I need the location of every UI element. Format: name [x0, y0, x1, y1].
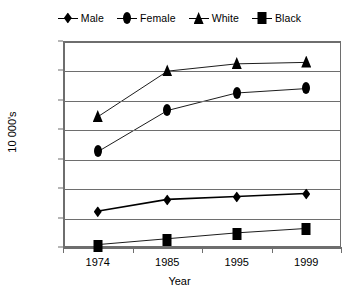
legend-label: White [212, 12, 239, 24]
x-tick-label: 1985 [155, 256, 179, 268]
x-tick-label: 1974 [86, 256, 110, 268]
x-tick-mark [272, 247, 273, 253]
x-tick-mark [133, 247, 134, 253]
x-axis-label: Year [0, 275, 359, 287]
ellipse-marker-icon [123, 12, 131, 24]
legend-item-male[interactable]: Male [58, 12, 104, 24]
gridline [64, 130, 340, 131]
series-line-female [99, 89, 306, 152]
data-point-black-1974 [93, 240, 102, 252]
x-tick-mark [63, 247, 64, 253]
data-point-black-1995 [232, 228, 241, 240]
legend-label: Male [81, 12, 104, 24]
gridline [64, 160, 340, 161]
gridline [64, 42, 340, 43]
legend-label: Black [275, 12, 301, 24]
gridline [64, 219, 340, 220]
legend-key-black [252, 12, 272, 24]
diamond-marker-icon [64, 13, 72, 24]
legend-item-white[interactable]: White [189, 12, 239, 24]
data-point-black-1985 [163, 234, 172, 246]
x-tick-mark [341, 247, 342, 253]
data-point-black-1999 [302, 223, 311, 235]
data-point-female-1999 [302, 82, 310, 94]
legend-label: Female [140, 12, 176, 24]
square-marker-icon [257, 12, 266, 24]
gridline [64, 189, 340, 190]
data-point-female-1995 [233, 87, 241, 99]
legend-item-black[interactable]: Black [252, 12, 301, 24]
x-tick-mark [202, 247, 203, 253]
data-point-female-1974 [94, 145, 102, 157]
line-chart: MaleFemaleWhiteBlack 10 000's 2224262821… [0, 0, 359, 297]
y-axis-ticks: 222426282102122142 [0, 0, 58, 297]
x-tick-label: 1995 [225, 256, 249, 268]
legend-item-female[interactable]: Female [117, 12, 176, 24]
y-axis-spine [63, 41, 65, 247]
gridline [64, 71, 340, 72]
legend-key-male [58, 12, 78, 24]
series-line-male [99, 194, 306, 211]
legend-key-white [189, 12, 209, 24]
gridline [64, 101, 340, 102]
x-tick-label: 1999 [294, 256, 318, 268]
series-lines [64, 42, 340, 246]
legend-key-female [117, 12, 137, 24]
data-point-female-1985 [163, 104, 171, 116]
series-line-black [99, 229, 306, 245]
plot-area [63, 41, 341, 247]
